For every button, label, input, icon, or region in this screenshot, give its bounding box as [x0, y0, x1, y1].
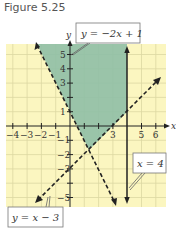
x-tick-label: −2	[34, 130, 47, 140]
label-eq2: x = 4	[137, 158, 164, 169]
chart: −4 −3 −2 −1 3 5 6 x 5 4 3 1 −1 −2 −3 −5 …	[0, 0, 176, 238]
x-tick-label: 3	[110, 130, 116, 140]
x-axis-arrow-icon	[164, 124, 170, 129]
y-tick-label: −2	[57, 150, 70, 160]
label-eq3: y = x − 3	[11, 212, 59, 223]
y-tick-label: −1	[57, 135, 70, 145]
y-tick-label: −5	[57, 193, 71, 203]
x-tick-label: −3	[20, 130, 34, 140]
x-tick-label: −4	[6, 130, 20, 140]
x-axis-label: x	[171, 121, 176, 131]
label-eq1: y = −2x + 1	[80, 28, 143, 39]
x-tick-label: 6	[153, 130, 159, 140]
y-tick-label: 3	[60, 78, 66, 88]
x-tick-label: 5	[139, 130, 145, 140]
y-axis-label: y	[65, 30, 72, 40]
y-tick-label: −3	[57, 164, 71, 174]
y-axis-arrow-icon	[68, 40, 73, 46]
y-tick-label: 1	[60, 107, 66, 117]
y-tick-label: 4	[60, 64, 66, 74]
y-tick-label: 5	[60, 50, 66, 60]
